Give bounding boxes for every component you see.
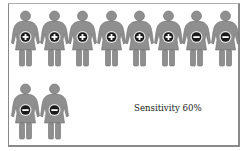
minus-person-icon [11, 83, 40, 141]
person-figure-positive [97, 10, 126, 68]
minus-person-icon [182, 10, 211, 68]
person-figure-positive [154, 10, 183, 68]
figure-row-2 [11, 83, 68, 141]
person-figure-positive [68, 10, 97, 68]
plus-person-icon [40, 10, 69, 68]
plus-person-icon [125, 10, 154, 68]
sensitivity-caption: Sensitivity 60% [134, 103, 202, 113]
plus-person-icon [11, 10, 40, 68]
figure-row-1 [11, 10, 239, 68]
plus-person-icon [154, 10, 183, 68]
minus-person-icon [211, 10, 240, 68]
person-figure-positive [125, 10, 154, 68]
plus-person-icon [97, 10, 126, 68]
person-figure-negative [40, 83, 69, 141]
person-figure-negative [182, 10, 211, 68]
plus-person-icon [68, 10, 97, 68]
person-figure-negative [211, 10, 240, 68]
minus-person-icon [40, 83, 69, 141]
person-figure-negative [11, 83, 40, 141]
person-figure-positive [40, 10, 69, 68]
person-figure-positive [11, 10, 40, 68]
